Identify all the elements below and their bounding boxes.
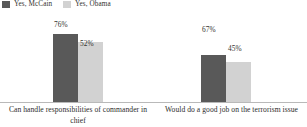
legend-swatch-mccain [2,1,10,8]
bar-group0-obama[interactable] [78,42,103,102]
bar-chart: Yes, McCain Yes, Obama 76% 52% 67% 45% C… [0,0,307,127]
bar-value-group0-mccain: 76% [54,20,68,29]
legend-swatch-obama [63,1,71,8]
bar-group0-mccain[interactable] [53,34,78,102]
legend-item-obama[interactable]: Yes, Obama [63,0,111,9]
bar-value-group1-obama: 45% [228,44,242,53]
bar-value-group0-obama: 52% [80,39,94,48]
plot-area: 76% 52% 67% 45% [0,12,307,103]
legend-label-mccain: Yes, McCain [14,0,52,8]
category-axis: Can handle responsibilities of commander… [0,105,307,127]
bar-group1-obama[interactable] [226,62,251,103]
category-label-0: Can handle responsibilities of commander… [2,105,154,126]
bar-group1-mccain[interactable] [201,55,226,102]
category-label-1: Would do a good job on the terrorism iss… [156,105,307,116]
bar-value-group1-mccain: 67% [202,25,216,34]
chart-legend: Yes, McCain Yes, Obama [0,0,307,9]
legend-label-obama: Yes, Obama [75,0,111,8]
axis-baseline [0,102,307,103]
legend-item-mccain[interactable]: Yes, McCain [2,0,52,9]
